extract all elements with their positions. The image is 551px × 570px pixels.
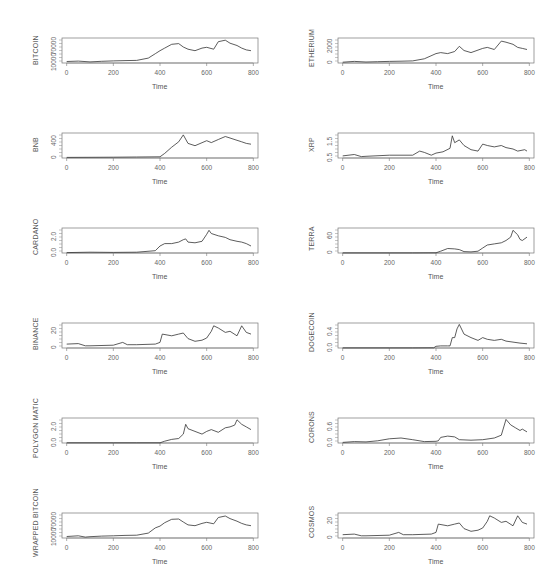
y-tick-label: 0 bbox=[50, 155, 57, 159]
x-tick-label: 800 bbox=[248, 544, 259, 551]
x-tick-label: 800 bbox=[524, 354, 535, 361]
y-tick-label: 400 bbox=[50, 135, 57, 146]
x-tick-label: 800 bbox=[248, 69, 259, 76]
x-axis-label: Time bbox=[152, 178, 167, 185]
plot-area bbox=[0, 95, 275, 190]
y-axis-label: TERRA bbox=[308, 226, 315, 251]
y-axis-label: DOGECOIN bbox=[308, 313, 315, 353]
y-tick-label: 0 bbox=[50, 345, 57, 349]
y-tick-label: 10000 bbox=[50, 52, 57, 70]
x-tick-label: 200 bbox=[384, 449, 395, 456]
y-tick-label: 2.0 bbox=[50, 422, 57, 431]
y-tick-label: 20 bbox=[326, 517, 333, 524]
x-tick-label: 400 bbox=[431, 449, 442, 456]
series-line bbox=[343, 516, 527, 536]
series-line bbox=[67, 326, 251, 346]
plot-area bbox=[0, 285, 275, 380]
x-tick-label: 0 bbox=[65, 544, 69, 551]
series-line bbox=[67, 135, 251, 158]
y-tick-label: 0 bbox=[326, 60, 333, 64]
y-tick-label: 70000 bbox=[50, 36, 57, 54]
x-tick-label: 200 bbox=[384, 544, 395, 551]
x-tick-label: 0 bbox=[65, 354, 69, 361]
x-tick-label: 600 bbox=[477, 259, 488, 266]
chart-panel-bitcoin: 0200400600800Time1000070000BITCOIN bbox=[0, 0, 275, 95]
x-tick-label: 800 bbox=[524, 544, 535, 551]
x-tick-label: 200 bbox=[108, 354, 119, 361]
x-tick-label: 200 bbox=[384, 69, 395, 76]
x-tick-label: 600 bbox=[477, 354, 488, 361]
x-tick-label: 600 bbox=[477, 164, 488, 171]
x-axis-label: Time bbox=[428, 368, 443, 375]
x-tick-label: 0 bbox=[341, 259, 345, 266]
y-axis-label: BINANCE bbox=[32, 318, 39, 351]
y-axis-label: BNB bbox=[32, 137, 39, 152]
x-tick-label: 0 bbox=[65, 259, 69, 266]
plot-area bbox=[276, 475, 551, 570]
x-tick-label: 200 bbox=[108, 544, 119, 551]
x-tick-label: 600 bbox=[477, 544, 488, 551]
plot-area bbox=[0, 475, 275, 570]
x-tick-label: 600 bbox=[201, 354, 212, 361]
series-line bbox=[67, 40, 251, 62]
y-axis-label: COSMOS bbox=[308, 506, 315, 538]
x-tick-label: 600 bbox=[477, 449, 488, 456]
y-tick-label: 2000 bbox=[326, 38, 333, 52]
chart-panel-wrapped-bitcoin: 0200400600800Time1000070000WRAPPED BITCO… bbox=[0, 475, 275, 570]
y-axis-label: POLYGON MATIC bbox=[32, 398, 39, 458]
y-tick-label: 1.5 bbox=[326, 137, 333, 146]
y-tick-label: 0 bbox=[326, 535, 333, 539]
x-tick-label: 800 bbox=[524, 259, 535, 266]
chart-panel-cosmos: 0200400600800Time020COSMOS bbox=[276, 475, 551, 570]
y-axis-label: XRP bbox=[308, 137, 315, 152]
x-axis-label: Time bbox=[152, 368, 167, 375]
series-line bbox=[343, 419, 527, 442]
plot-frame bbox=[62, 133, 258, 158]
x-tick-label: 400 bbox=[431, 354, 442, 361]
x-axis-label: Time bbox=[152, 558, 167, 565]
x-axis-label: Time bbox=[152, 463, 167, 470]
x-axis-label: Time bbox=[428, 273, 443, 280]
x-tick-label: 200 bbox=[108, 449, 119, 456]
x-tick-label: 400 bbox=[431, 544, 442, 551]
x-tick-label: 800 bbox=[248, 259, 259, 266]
x-tick-label: 800 bbox=[248, 354, 259, 361]
series-line bbox=[343, 230, 527, 253]
plot-area bbox=[276, 285, 551, 380]
x-axis-label: Time bbox=[152, 273, 167, 280]
chart-panel-polygon-matic: 0200400600800Time0.02.0POLYGON MATIC bbox=[0, 380, 275, 475]
x-tick-label: 400 bbox=[155, 69, 166, 76]
plot-frame bbox=[338, 513, 534, 538]
x-tick-label: 600 bbox=[201, 69, 212, 76]
chart-panel-dogecoin: 0200400600800Time0.00.4DOGECOIN bbox=[276, 285, 551, 380]
plot-frame bbox=[338, 418, 534, 443]
x-tick-label: 200 bbox=[108, 259, 119, 266]
y-tick-label: 20 bbox=[50, 327, 57, 334]
x-tick-label: 400 bbox=[155, 544, 166, 551]
y-tick-label: 0.5 bbox=[326, 153, 333, 162]
x-tick-label: 800 bbox=[524, 449, 535, 456]
x-tick-label: 0 bbox=[341, 354, 345, 361]
series-line bbox=[67, 516, 251, 537]
y-tick-label: 70000 bbox=[50, 511, 57, 529]
x-tick-label: 0 bbox=[65, 164, 69, 171]
x-tick-label: 800 bbox=[524, 69, 535, 76]
y-axis-label: CORONS bbox=[308, 411, 315, 443]
plot-area bbox=[0, 380, 275, 475]
plot-frame bbox=[62, 513, 258, 538]
chart-panel-cardano: 0200400600800Time0.02.0CARDANO bbox=[0, 190, 275, 285]
plot-area bbox=[276, 380, 551, 475]
plot-frame bbox=[338, 133, 534, 158]
plot-area bbox=[0, 0, 275, 95]
x-tick-label: 0 bbox=[65, 449, 69, 456]
y-tick-label: 0.6 bbox=[326, 422, 333, 431]
y-axis-label: WRAPPED BITCOIN bbox=[32, 488, 39, 557]
x-axis-label: Time bbox=[152, 83, 167, 90]
x-tick-label: 600 bbox=[201, 259, 212, 266]
plot-area bbox=[276, 95, 551, 190]
y-axis-label: BITCOIN bbox=[32, 35, 39, 65]
plot-area bbox=[0, 190, 275, 285]
x-tick-label: 0 bbox=[341, 69, 345, 76]
x-tick-label: 400 bbox=[431, 164, 442, 171]
y-tick-label: 60 bbox=[326, 232, 333, 239]
